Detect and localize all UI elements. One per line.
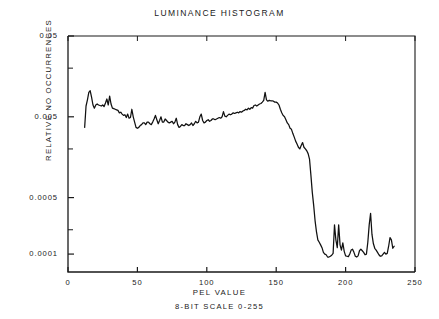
x-tick-label-0: 0: [48, 278, 88, 287]
chart-figure: LUMINANCE HISTOGRAM RELATIVE NO OCCURREN…: [0, 0, 439, 319]
x-tick-label-4: 200: [326, 278, 366, 287]
x-tick-label-5: 250: [395, 278, 435, 287]
x-tick-label-2: 100: [187, 278, 227, 287]
x-tick-label-1: 50: [117, 278, 157, 287]
x-axis-label: PEL VALUE: [0, 288, 439, 297]
y-tick-label-2: 0.0005: [0, 193, 58, 202]
axis-spines-left-bottom: [68, 36, 415, 272]
y-tick-label-0: 0.05: [0, 31, 58, 40]
x-axis-sublabel: 8-BIT SCALE 0-255: [0, 302, 439, 311]
y-tick-label-1: 0.005: [0, 112, 58, 121]
axis-spines-top-right: [68, 36, 415, 272]
y-tick-label-3: 0.0001: [0, 249, 58, 258]
x-tick-label-3: 150: [256, 278, 296, 287]
plot-area: [0, 0, 439, 319]
data-series-line: [85, 91, 395, 257]
